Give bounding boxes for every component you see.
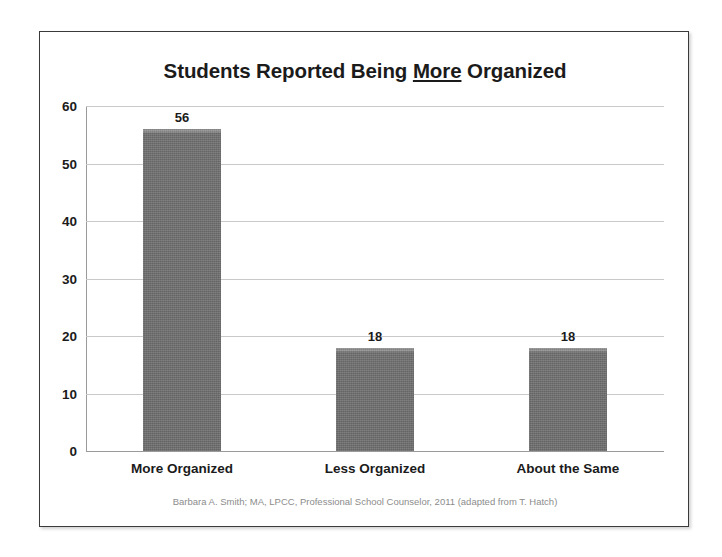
x-tick-label-about-the-same: About the Same: [483, 461, 653, 476]
plot-area: 60 50 40 30 20 10 0 56 18 18: [86, 106, 664, 451]
source-citation: Barbara A. Smith; MA, LPCC, Professional…: [40, 496, 690, 507]
bar-more-organized[interactable]: [143, 129, 221, 451]
x-tick-label-more-organized: More Organized: [97, 461, 267, 476]
y-tick-label-30: 30: [62, 271, 77, 286]
chart-title-emphasis: More: [413, 59, 462, 82]
y-tick-label-40: 40: [62, 214, 77, 229]
y-tick-label-60: 60: [62, 99, 77, 114]
x-axis-baseline: [86, 451, 664, 452]
y-tick-label-0: 0: [69, 444, 77, 459]
y-tick-label-50: 50: [62, 156, 77, 171]
bar-value-about-the-same: 18: [529, 329, 607, 344]
chart-frame: Students Reported Being More Organized 6…: [39, 31, 689, 527]
bar-about-the-same[interactable]: [529, 348, 607, 452]
y-tick-label-20: 20: [62, 329, 77, 344]
x-tick-label-less-organized: Less Organized: [290, 461, 460, 476]
chart-title: Students Reported Being More Organized: [40, 59, 690, 83]
y-tick-label-10: 10: [62, 386, 77, 401]
chart-title-part-1: Students Reported Being: [164, 59, 413, 82]
bar-less-organized[interactable]: [336, 348, 414, 452]
bar-value-less-organized: 18: [336, 329, 414, 344]
bar-value-more-organized: 56: [143, 110, 221, 125]
gridline-60: [86, 106, 664, 107]
chart-title-part-3: Organized: [461, 59, 566, 82]
